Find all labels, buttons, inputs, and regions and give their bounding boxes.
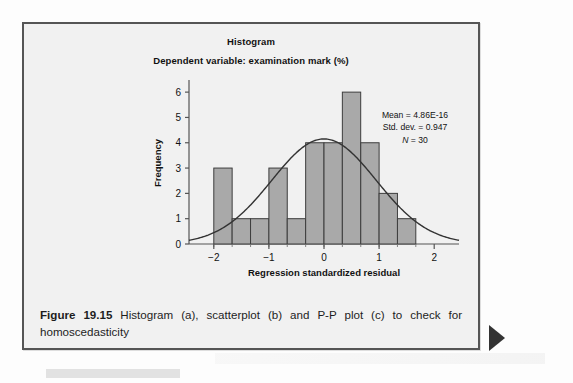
next-page-text-ghost [215,353,545,364]
histogram-bar [306,143,324,244]
y-axis-title: Frequency [152,138,163,187]
figure-caption-label: Figure 19.15 [40,308,112,321]
y-tick-label: 5 [175,112,181,123]
histogram-bar [361,143,379,244]
x-tick-label: −2 [208,252,220,263]
x-axis-title: Regression standardized residual [248,267,400,278]
x-tick-label: 0 [321,252,327,263]
y-tick-label: 1 [175,213,181,224]
histogram-bar [214,168,232,244]
plot-area: 0123456Frequency−2−1012Regression standa… [24,72,482,302]
histogram-bar [397,219,415,244]
figure-caption: Figure 19.15 Histogram (a), scatterplot … [24,300,478,340]
x-tick-label: 2 [431,252,437,263]
stat-n-value: = 30 [408,135,427,145]
page-footer-ghost [46,369,180,378]
y-tick-label: 2 [175,188,181,199]
histogram-svg: 0123456Frequency−2−1012Regression standa… [24,72,482,302]
statistics-annotation: Mean = 4.86E-16 Std. dev. = 0.947 N = 30 [354,109,476,146]
stat-std-dev: Std. dev. = 0.947 [354,121,476,133]
y-tick-label: 3 [175,163,181,174]
histogram-bar [324,143,342,244]
histogram-bar [379,193,397,244]
page-bleed-top [0,0,573,22]
x-tick-label: −1 [263,252,275,263]
stat-mean: Mean = 4.86E-16 [354,109,476,121]
chart-title: Histogram [24,36,478,47]
histogram-figure: Histogram Dependent variable: examinatio… [24,24,478,302]
histogram-bar [232,219,250,244]
chart-subtitle: Dependent variable: examination mark (%) [24,55,478,66]
y-tick-label: 6 [175,87,181,98]
histogram-bar [287,219,305,244]
y-tick-label: 0 [175,239,181,250]
stat-n: N = 30 [354,134,476,146]
x-tick-label: 1 [376,252,382,263]
histogram-bar [251,219,269,244]
book-page: Histogram Dependent variable: examinatio… [22,22,480,350]
y-tick-label: 4 [175,137,181,148]
next-page-arrow-icon[interactable] [489,325,505,351]
